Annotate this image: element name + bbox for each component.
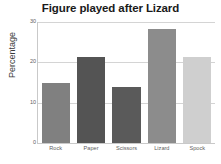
x-axis-line bbox=[37, 143, 215, 144]
bar-chart: Figure played after Lizard Percentage 01… bbox=[0, 0, 221, 164]
y-tick-label: 30 bbox=[22, 19, 36, 25]
x-tick-label: Lizard bbox=[144, 146, 179, 152]
x-tick-label: Paper bbox=[73, 146, 108, 152]
y-axis-label: Percentage bbox=[7, 10, 17, 100]
bars-layer bbox=[38, 22, 215, 143]
y-tick-label: 10 bbox=[22, 100, 36, 106]
y-tick-label: 20 bbox=[22, 59, 36, 65]
x-tick-label: Spock bbox=[180, 146, 215, 152]
x-axis-labels: RockPaperScissorsLizardSpock bbox=[38, 146, 215, 160]
x-tick-label: Rock bbox=[38, 146, 73, 152]
bar-rock[interactable] bbox=[42, 83, 70, 144]
y-tick-label: 0 bbox=[22, 140, 36, 146]
bar-paper[interactable] bbox=[77, 57, 105, 143]
bar-lizard[interactable] bbox=[148, 29, 176, 143]
x-tick-label: Scissors bbox=[109, 146, 144, 152]
bar-spock[interactable] bbox=[183, 57, 211, 143]
bar-scissors[interactable] bbox=[112, 87, 140, 143]
y-axis-ticks: 0102030 bbox=[18, 0, 36, 164]
